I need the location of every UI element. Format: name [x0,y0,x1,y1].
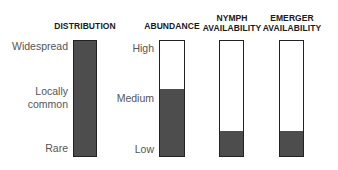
emerger-bar [279,40,304,157]
nymph-fill [220,131,243,156]
emerger-title-line2: AVAILABILITY [259,23,325,33]
nymph-title-line2: AVAILABILITY [200,23,264,33]
emerger-title-line1: EMERGER [259,13,325,23]
nymph-title-line1: NYMPH [200,13,264,23]
tick-widespread: Widespread [0,40,68,52]
emerger-fill [280,131,303,156]
tick-medium: Medium [110,92,154,104]
abundance-title: ABUNDANCE [140,21,204,31]
abundance-fill [160,89,184,156]
nymph-bar [219,40,244,157]
tick-rare: Rare [0,142,68,154]
abundance-bar [159,40,185,157]
distribution-fill [74,41,96,156]
tick-low: Low [110,143,154,155]
distribution-bar [73,40,97,157]
distribution-title: DISTRIBUTION [50,21,120,31]
tick-common: common [0,98,68,110]
tick-high: High [110,42,154,54]
tick-locally: Locally [0,85,68,97]
